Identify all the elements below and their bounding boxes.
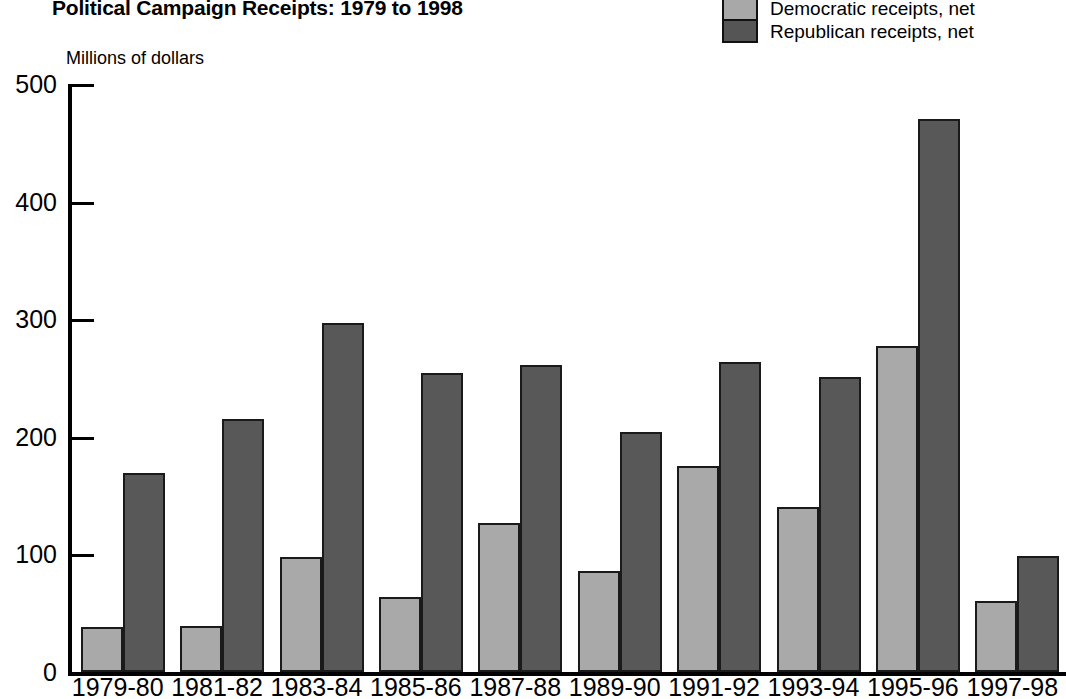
bar-democratic bbox=[180, 626, 222, 672]
bar-democratic bbox=[975, 601, 1017, 672]
y-axis-tick-label: 500 bbox=[15, 72, 57, 97]
bar-democratic bbox=[478, 523, 520, 672]
bar-republican bbox=[322, 323, 364, 672]
legend-label-democratic: Democratic receipts, net bbox=[770, 0, 975, 20]
plot-area: 0100200300400500 bbox=[68, 84, 1066, 672]
y-axis-tick-label: 0 bbox=[43, 660, 57, 685]
bar-republican bbox=[620, 432, 662, 672]
bar-group bbox=[280, 84, 364, 672]
legend-swatch-republican bbox=[724, 19, 756, 41]
page-title: Political Campaign Receipts: 1979 to 199… bbox=[52, 0, 463, 20]
bar-group bbox=[677, 84, 761, 672]
bar-group bbox=[777, 84, 861, 672]
bar-republican bbox=[123, 473, 165, 672]
bar-republican bbox=[719, 362, 761, 672]
bar-democratic bbox=[876, 346, 918, 672]
y-axis-tick-label: 300 bbox=[15, 307, 57, 332]
bar-democratic bbox=[677, 466, 719, 672]
chart-legend: Democratic receipts, net Republican rece… bbox=[722, 0, 975, 43]
bar-group bbox=[379, 84, 463, 672]
bar-group bbox=[478, 84, 562, 672]
bar-republican bbox=[421, 373, 463, 672]
x-axis-tick-label: 1981-82 bbox=[167, 674, 266, 699]
x-axis-tick-label: 1985-86 bbox=[366, 674, 465, 699]
x-axis-tick-label: 1995-96 bbox=[863, 674, 962, 699]
bar-group bbox=[975, 84, 1059, 672]
bar-group bbox=[81, 84, 165, 672]
bar-republican bbox=[918, 119, 960, 672]
x-axis-tick-label: 1983-84 bbox=[267, 674, 366, 699]
legend-labels: Democratic receipts, net Republican rece… bbox=[770, 0, 975, 43]
bar-democratic bbox=[379, 597, 421, 672]
bar-republican bbox=[1017, 556, 1059, 672]
bar-democratic bbox=[578, 571, 620, 672]
x-axis-labels: 1979-801981-821983-841985-861987-881989-… bbox=[68, 674, 1066, 699]
x-axis-tick-label: 1991-92 bbox=[664, 674, 763, 699]
legend-label-republican: Republican receipts, net bbox=[770, 20, 975, 43]
bar-democratic bbox=[81, 627, 123, 672]
chart-figure: Political Campaign Receipts: 1979 to 199… bbox=[0, 0, 1066, 699]
bar-group bbox=[180, 84, 264, 672]
bar-democratic bbox=[280, 557, 322, 672]
bar-group bbox=[876, 84, 960, 672]
x-axis-tick-label: 1979-80 bbox=[68, 674, 167, 699]
y-axis-tick-label: 400 bbox=[15, 189, 57, 214]
y-axis-tick-label: 200 bbox=[15, 424, 57, 449]
y-axis-tick-label: 100 bbox=[15, 542, 57, 567]
x-axis-tick-label: 1997-98 bbox=[963, 674, 1062, 699]
bar-democratic bbox=[777, 507, 819, 672]
bar-republican bbox=[222, 419, 264, 672]
x-axis-tick-label: 1993-94 bbox=[764, 674, 863, 699]
y-axis-label: Millions of dollars bbox=[66, 48, 204, 69]
x-axis-tick-label: 1989-90 bbox=[565, 674, 664, 699]
legend-swatch bbox=[722, 0, 758, 43]
x-axis-tick-label: 1987-88 bbox=[466, 674, 565, 699]
bar-republican bbox=[520, 365, 562, 672]
bars-layer bbox=[72, 84, 1066, 672]
bar-group bbox=[578, 84, 662, 672]
legend-swatch-democratic bbox=[724, 0, 756, 19]
bar-republican bbox=[819, 377, 861, 672]
